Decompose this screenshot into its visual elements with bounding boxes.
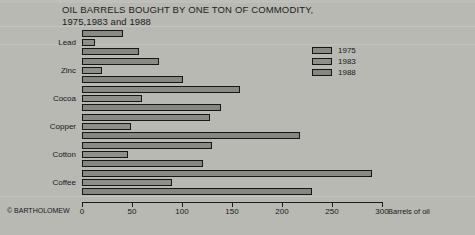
- bar-coffee-1988: [82, 188, 312, 195]
- x-axis: 050100150200250300: [82, 202, 382, 208]
- bar-cotton-1975: [82, 142, 212, 149]
- category-label-cocoa: Cocoa: [53, 94, 76, 103]
- category-label-coffee: Coffee: [53, 178, 76, 187]
- legend-swatch-1983: [312, 58, 332, 65]
- category-label-zinc: Zinc: [61, 66, 76, 75]
- legend-swatch-1975: [312, 47, 332, 54]
- bar-group: [82, 142, 382, 168]
- bar-cotton-1988: [82, 160, 203, 167]
- category-axis-labels: LeadZincCocoaCopperCottonCoffee: [0, 28, 76, 203]
- x-tick-label: 250: [325, 207, 338, 217]
- bar-cotton-1983: [82, 151, 128, 158]
- legend-item-1975: 1975: [312, 46, 382, 57]
- legend-label-1975: 1975: [338, 46, 356, 56]
- category-label-lead: Lead: [58, 38, 76, 47]
- legend-label-1988: 1988: [338, 68, 356, 78]
- legend: 197519831988: [312, 46, 382, 79]
- chart-figure: OIL BARRELS BOUGHT BY ONE TON OF COMMODI…: [0, 0, 475, 235]
- bar-coffee-1975: [82, 170, 372, 177]
- category-label-copper: Copper: [50, 122, 76, 131]
- credit-text: © BARTHOLOMEW: [7, 206, 70, 215]
- legend-item-1983: 1983: [312, 57, 382, 68]
- title-line-1: OIL BARRELS BOUGHT BY ONE TON OF COMMODI…: [62, 4, 392, 16]
- bar-cocoa-1975: [82, 86, 240, 93]
- bar-copper-1983: [82, 123, 131, 130]
- x-tick-label: 150: [225, 207, 238, 217]
- x-tick-label: 0: [80, 207, 84, 217]
- bar-copper-1988: [82, 132, 300, 139]
- title-line-2: 1975,1983 and 1988: [62, 16, 392, 28]
- x-axis-title: Barrels of oil: [388, 207, 430, 216]
- bar-group: [82, 86, 382, 112]
- bar-lead-1983: [82, 39, 95, 46]
- x-tick-label: 200: [275, 207, 288, 217]
- legend-label-1983: 1983: [338, 57, 356, 67]
- bar-lead-1988: [82, 48, 139, 55]
- x-tick-label: 100: [175, 207, 188, 217]
- legend-item-1988: 1988: [312, 68, 382, 79]
- bar-group: [82, 114, 382, 140]
- bar-zinc-1975: [82, 58, 159, 65]
- category-label-cotton: Cotton: [52, 150, 76, 159]
- bar-zinc-1983: [82, 67, 102, 74]
- bar-lead-1975: [82, 30, 123, 37]
- bar-cocoa-1983: [82, 95, 142, 102]
- chart-title: OIL BARRELS BOUGHT BY ONE TON OF COMMODI…: [62, 4, 392, 27]
- bar-group: [82, 170, 382, 196]
- x-tick-label: 300: [375, 207, 388, 217]
- bar-copper-1975: [82, 114, 210, 121]
- bar-zinc-1988: [82, 76, 183, 83]
- bar-coffee-1983: [82, 179, 172, 186]
- bar-cocoa-1988: [82, 104, 221, 111]
- x-tick-label: 50: [128, 207, 137, 217]
- legend-swatch-1988: [312, 69, 332, 76]
